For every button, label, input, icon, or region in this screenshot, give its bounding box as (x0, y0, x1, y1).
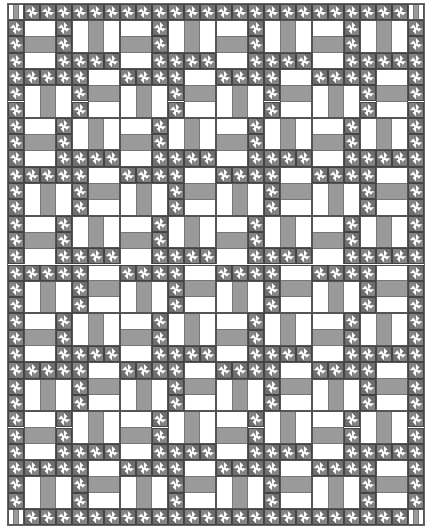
white-stripe (265, 217, 280, 248)
rail-block-horizontal (120, 118, 152, 167)
border-pinwheel (312, 4, 328, 20)
sashing-pinwheel (360, 444, 376, 460)
border-pinwheel (40, 4, 56, 20)
border-pinwheel (8, 444, 24, 460)
sashing-pinwheel (248, 444, 264, 460)
sashing-pinwheel (312, 362, 328, 378)
sashing-pinwheel (344, 134, 360, 150)
sashing-pinwheel (248, 265, 264, 281)
border-pinwheel (8, 102, 24, 118)
gray-stripe (217, 427, 247, 443)
sashing-pinwheel (152, 53, 168, 69)
sashing-pinwheel (264, 53, 280, 69)
sashing-pinwheel (168, 346, 184, 362)
border-pinwheel (408, 199, 424, 215)
rail-block-horizontal (216, 411, 248, 460)
white-stripe (121, 443, 151, 459)
white-stripe (281, 461, 311, 476)
rail-block-vertical (72, 118, 120, 151)
border-pinwheel (8, 265, 24, 281)
border-pinwheel (8, 150, 24, 166)
white-stripe (25, 412, 55, 427)
sashing-pinwheel (360, 395, 376, 411)
sashing-pinwheel (328, 167, 344, 183)
sashing-pinwheel (328, 265, 344, 281)
sashing-pinwheel (88, 53, 104, 69)
white-stripe (169, 119, 184, 150)
white-stripe (377, 296, 407, 312)
white-stripe (169, 21, 184, 52)
white-stripe (313, 477, 328, 508)
white-stripe (121, 21, 151, 36)
sashing-pinwheel (168, 379, 184, 395)
gray-stripe (89, 183, 119, 199)
sashing-pinwheel (376, 346, 392, 362)
gray-stripe (185, 378, 215, 394)
border-pinwheel (8, 476, 24, 492)
white-stripe (103, 314, 119, 345)
sashing-pinwheel (168, 362, 184, 378)
gray-stripe (281, 280, 311, 296)
rail-block-vertical (72, 216, 120, 249)
border-pinwheel (408, 232, 424, 248)
sashing-pinwheel (24, 265, 40, 281)
sashing-pinwheel (264, 444, 280, 460)
white-stripe (185, 101, 215, 117)
rail-block-horizontal (24, 411, 56, 460)
border-pinwheel (88, 4, 104, 20)
sashing-pinwheel (344, 232, 360, 248)
border-pinwheel (408, 265, 424, 281)
rail-block-vertical (264, 20, 312, 53)
white-stripe (185, 168, 215, 183)
white-stripe (25, 119, 55, 134)
sashing-pinwheel (168, 297, 184, 313)
white-stripe (89, 70, 119, 85)
sashing-pinwheel (120, 362, 136, 378)
sashing-pinwheel (40, 460, 56, 476)
white-stripe (265, 412, 280, 443)
sashing-pinwheel (152, 428, 168, 444)
sashing-pinwheel (184, 53, 200, 69)
sashing-pinwheel (344, 216, 360, 232)
border-pinwheel (408, 379, 424, 395)
sashing-pinwheel (104, 346, 120, 362)
rail-block-horizontal (184, 460, 216, 509)
sashing-pinwheel (72, 395, 88, 411)
white-stripe (217, 345, 247, 361)
sashing-pinwheel (168, 85, 184, 101)
border-pinwheel (56, 4, 72, 20)
sashing-pinwheel (168, 199, 184, 215)
sashing-pinwheel (72, 199, 88, 215)
sashing-pinwheel (24, 460, 40, 476)
rail-block-horizontal (120, 216, 152, 265)
rail-block-vertical (24, 379, 72, 412)
sashing-pinwheel (264, 183, 280, 199)
sashing-pinwheel (264, 85, 280, 101)
border-pinwheel (8, 85, 24, 101)
white-stripe (73, 119, 88, 150)
rail-block-vertical (312, 281, 360, 314)
border-pinwheel (120, 509, 136, 525)
gray-stripe (88, 119, 104, 150)
white-stripe (199, 217, 215, 248)
border-pinwheel (8, 493, 24, 509)
sashing-pinwheel (56, 346, 72, 362)
sashing-pinwheel (168, 265, 184, 281)
gray-stripe (88, 217, 104, 248)
white-stripe (73, 21, 88, 52)
border-pinwheel (408, 118, 424, 134)
sashing-pinwheel (168, 248, 184, 264)
sashing-pinwheel (72, 150, 88, 166)
white-stripe (25, 52, 55, 68)
gray-stripe (313, 427, 343, 443)
white-stripe (121, 345, 151, 361)
border-pinwheel (72, 4, 88, 20)
rail-block-horizontal (88, 460, 120, 509)
rail-block-vertical (120, 281, 168, 314)
sashing-pinwheel (40, 167, 56, 183)
sashing-pinwheel (392, 53, 408, 69)
rail-block-vertical (120, 183, 168, 216)
sashing-pinwheel (280, 150, 296, 166)
sashing-pinwheel (376, 150, 392, 166)
sashing-pinwheel (248, 53, 264, 69)
